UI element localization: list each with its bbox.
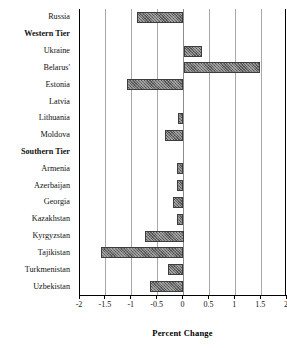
x-axis-tick [234,295,235,299]
x-axis-tick-label: -0.5 [144,300,170,309]
x-axis-tick-label: -2 [66,300,92,309]
gridline-1 [235,9,236,295]
x-axis-tick-label: -1 [118,300,144,309]
category-label: Azerbaijan [0,181,70,191]
category-label: Estonia [0,80,70,90]
x-axis-tick-label: 0.5 [195,300,221,309]
category-label: Belarus' [0,63,70,73]
category-label: Kazakhstan [0,214,70,224]
bar [168,264,184,275]
bar [177,180,183,191]
bar [145,231,184,242]
x-axis-tick-label: 1 [221,300,247,309]
x-axis-tick [208,295,209,299]
gridline-0_5 [209,9,210,295]
bar [184,62,260,73]
bar [184,46,202,57]
x-axis-tick-label: 0 [170,300,196,309]
category-label: Russia [0,12,70,22]
x-axis-tick [286,295,287,299]
bar [177,163,183,174]
x-axis-tick [156,295,157,299]
category-label: Latvia [0,97,70,107]
category-label: Armenia [0,164,70,174]
x-axis-tick [79,295,80,299]
category-label: Tajikistan [0,248,70,258]
category-label: Uzbekistan [0,282,70,292]
group-header-label: Western Tier [0,29,70,39]
x-axis-tick-label: 1.5 [247,300,273,309]
group-header-label: Southern Tier [0,147,70,157]
bar [165,130,183,141]
x-axis-tick-label: -1.5 [92,300,118,309]
bar [173,197,183,208]
category-label: Turkmenistan [0,265,70,275]
bar [137,12,184,23]
category-label: Moldova [0,130,70,140]
x-axis-tick [182,295,183,299]
bar [101,247,184,258]
gridline-1_5 [261,9,262,295]
bar [178,113,183,124]
category-label: Kyrgyzstan [0,231,70,241]
category-label: Lithuania [0,113,70,123]
x-axis-tick [260,295,261,299]
category-label: Ukraine [0,46,70,56]
chart-figure: RussiaWestern TierUkraineBelarus'Estonia… [0,0,287,348]
x-axis-tick-label: 2 [273,300,287,309]
x-axis-tick [130,295,131,299]
category-label-column: RussiaWestern TierUkraineBelarus'Estonia… [0,9,74,295]
x-axis-title: Percent Change [79,328,286,338]
x-axis-tick [104,295,105,299]
plot-area [79,9,286,295]
bar [150,281,184,292]
bar [177,214,183,225]
category-label: Georgia [0,197,70,207]
bar [127,79,184,90]
